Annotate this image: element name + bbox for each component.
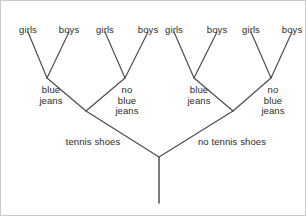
leaf-label-7: girls (242, 25, 260, 36)
tree-branch (47, 32, 69, 78)
tree-branch (28, 32, 47, 78)
leaf-label-6: boys (207, 25, 227, 36)
leaf-label-2: boys (59, 25, 79, 36)
classification-tree-diagram: girlsboysgirlsboysgirlsboysgirlsboys blu… (0, 0, 306, 216)
mid-label-3: blue jeans (187, 85, 210, 106)
mid-label-4: no blue jeans (261, 85, 284, 117)
leaf-label-3: girls (96, 25, 114, 36)
tree-branch (86, 111, 159, 157)
tree-branch (194, 32, 217, 78)
tree-branch (105, 32, 125, 78)
leaf-label-8: boys (282, 25, 302, 36)
tree-branch (174, 32, 194, 78)
mid-label-2: no blue jeans (115, 85, 138, 117)
tree-branch (251, 32, 271, 78)
tree-branch (271, 32, 292, 78)
leaf-label-1: girls (19, 25, 37, 36)
tree-branch (125, 32, 148, 78)
leaf-label-5: girls (165, 25, 183, 36)
base-label-2: no tennis shoes (198, 137, 266, 148)
base-label-1: tennis shoes (66, 137, 121, 148)
mid-label-1: blue jeans (39, 85, 62, 106)
tree-branch (159, 111, 233, 157)
leaf-label-4: boys (138, 25, 158, 36)
